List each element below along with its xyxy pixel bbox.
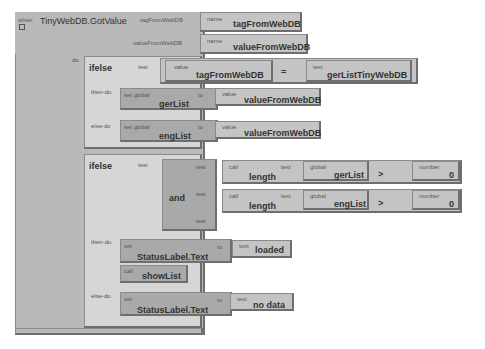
- then-do-label: then-do: [91, 239, 111, 245]
- do-label: do: [72, 57, 79, 63]
- set-global-label: set global: [124, 92, 150, 98]
- call-label: call: [124, 268, 133, 274]
- test-label-2: test: [196, 191, 206, 197]
- value-name: valueFromWebDB: [244, 95, 321, 105]
- to-label: to: [217, 244, 222, 250]
- value-tag: tagFromWebDB: [196, 70, 264, 80]
- compare-op: =: [281, 67, 286, 77]
- text-block-gerlisttinywebdb[interactable]: text gerListTinyWebDB: [306, 60, 412, 82]
- value-name: valueFromWebDB: [244, 128, 321, 138]
- set-statuslabel-nodata-block[interactable]: set StatusLabel.Text to: [120, 292, 232, 316]
- number-label: number: [419, 164, 439, 170]
- number-label: number: [419, 193, 439, 199]
- to-label: to: [198, 92, 203, 98]
- value-block-then[interactable]: value valueFromWebDB: [215, 88, 321, 106]
- collapse-checkbox[interactable]: [19, 24, 25, 30]
- then-do-label: then-do: [91, 89, 111, 95]
- param-name-block-tag[interactable]: name tagFromWebDB: [200, 12, 302, 32]
- else-do-label: else-do: [91, 293, 111, 299]
- text-value: gerListTinyWebDB: [327, 70, 407, 80]
- value-label: value: [222, 91, 236, 97]
- target-statuslabel: StatusLabel.Text: [137, 252, 208, 262]
- text-block-loaded[interactable]: text loaded: [232, 240, 292, 258]
- global-label: global: [310, 164, 326, 170]
- target-statuslabel: StatusLabel.Text: [137, 305, 208, 315]
- set-label: set: [124, 243, 132, 249]
- value-block-tag[interactable]: value tagFromWebDB: [165, 60, 273, 82]
- to-label: to: [217, 297, 222, 303]
- when-label: when: [18, 17, 32, 23]
- test-label: test: [138, 162, 148, 168]
- ifelse-keyword: ifelse: [89, 161, 112, 171]
- event-name: TinyWebDB.GotValue: [40, 16, 127, 26]
- set-label: set: [124, 296, 132, 302]
- global-block-englist[interactable]: global engList: [303, 190, 369, 210]
- op-gt: >: [378, 169, 383, 179]
- text-value-nodata: no data: [253, 300, 285, 310]
- param-name-tag: tagFromWebDB: [233, 19, 301, 29]
- set-statuslabel-loaded-block[interactable]: set StatusLabel.Text to: [120, 239, 232, 263]
- var-gerlist: gerList: [334, 170, 364, 180]
- name-label: name: [207, 38, 222, 44]
- param-label-tag: tagFromWebDB: [140, 17, 183, 23]
- number-block-1[interactable]: number 0: [412, 161, 460, 181]
- text-label: text: [281, 193, 291, 199]
- global-block-gerlist[interactable]: global gerList: [303, 161, 369, 181]
- set-global-englist-block[interactable]: set global engList to: [120, 120, 218, 142]
- global-label: global: [310, 193, 326, 199]
- var-englist: engList: [159, 131, 191, 141]
- name-label: name: [207, 16, 222, 22]
- func-length: length: [249, 172, 276, 182]
- value-block-else[interactable]: value valueFromWebDB: [215, 121, 321, 139]
- text-value-loaded: loaded: [255, 245, 284, 255]
- text-label: text: [281, 164, 291, 170]
- param-name-block-value[interactable]: name valueFromWebDB: [200, 34, 308, 54]
- set-global-gerlist-block[interactable]: set global gerList to: [120, 88, 218, 110]
- value-label: value: [174, 64, 188, 70]
- test-label-1: test: [196, 164, 206, 170]
- var-gerlist: gerList: [159, 99, 189, 109]
- value-label: value: [222, 124, 236, 130]
- number-value: 0: [449, 199, 454, 209]
- text-label: text: [313, 64, 323, 70]
- param-name-value: valueFromWebDB: [233, 42, 310, 52]
- text-label: text: [237, 296, 247, 302]
- proc-showlist: showList: [142, 271, 181, 281]
- to-label: to: [198, 124, 203, 130]
- op-gt: >: [378, 198, 383, 208]
- var-englist: engList: [334, 199, 366, 209]
- call-showlist-block[interactable]: call showList: [120, 265, 188, 283]
- func-length: length: [249, 201, 276, 211]
- param-label-value: valueFromWebDB: [133, 40, 182, 46]
- and-keyword: and: [169, 193, 185, 203]
- call-label: call: [229, 164, 238, 170]
- text-label: text: [239, 243, 249, 249]
- ifelse-keyword: ifelse: [89, 63, 112, 73]
- number-value: 0: [449, 170, 454, 180]
- and-block[interactable]: and test test test: [162, 159, 217, 231]
- test-label: test: [138, 64, 148, 70]
- else-do-label: else-do: [91, 123, 111, 129]
- number-block-2[interactable]: number 0: [412, 190, 460, 210]
- test-label-3: test: [196, 218, 206, 224]
- call-label: call: [229, 193, 238, 199]
- event-bottom-bar: [15, 328, 203, 335]
- text-block-nodata[interactable]: text no data: [230, 293, 294, 311]
- set-global-label: set global: [124, 124, 150, 130]
